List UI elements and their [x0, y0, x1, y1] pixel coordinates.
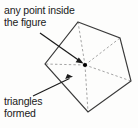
annotation-any-point-inside: any point insidethe figure [4, 5, 75, 28]
pentagon-outline [45, 22, 131, 112]
annotation-line-1: triangles [4, 95, 42, 107]
arrow-to-point [40, 33, 84, 64]
diagram-container: any point insidethe figure trianglesform… [0, 0, 138, 128]
annotation-line-1: any point inside [4, 4, 75, 16]
annotation-triangles-formed: trianglesformed [4, 96, 42, 119]
dashed-radius-2 [85, 38, 120, 65]
dashed-radius-4 [85, 65, 88, 112]
triangle-divider-lines [45, 22, 131, 112]
arrow-to-triangle [33, 74, 73, 96]
dashed-radius-3 [85, 65, 131, 81]
interior-point-dot [83, 63, 87, 67]
dashed-radius-5 [45, 64, 85, 65]
annotation-line-2: formed [4, 107, 36, 119]
annotation-line-2: the figure [4, 16, 46, 28]
